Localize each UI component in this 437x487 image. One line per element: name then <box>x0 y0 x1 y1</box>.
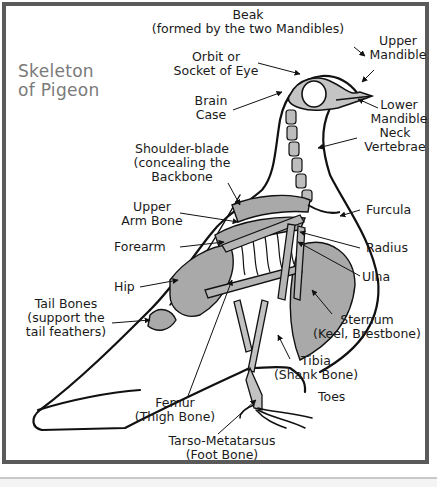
label-tail-bones-line3: tail feathers) <box>18 325 114 339</box>
foot <box>240 405 312 428</box>
label-orbit-line2: Socket of Eye <box>166 64 266 78</box>
diagram-title: Skeleton of Pigeon <box>18 62 100 100</box>
label-brain-case-line1: Brain <box>186 94 236 108</box>
label-shoulder-blade-line3: Backbone <box>126 170 238 184</box>
label-toes: Toes <box>318 390 345 404</box>
label-femur: Femur (Thigh Bone) <box>130 396 220 424</box>
label-beak-line2: (formed by the two Mandibles) <box>138 22 358 36</box>
label-forearm-line1: Forearm <box>114 240 166 254</box>
label-orbit: Orbit or Socket of Eye <box>166 50 266 78</box>
label-tibia: Tibia (Shank Bone) <box>268 354 364 382</box>
label-tail-bones-line2: (support the <box>18 311 114 325</box>
title-line-2: of Pigeon <box>18 81 100 100</box>
label-sternum-line1: Sternum <box>304 313 430 327</box>
neck-vertebrae <box>286 110 312 202</box>
label-upper-arm-bone: Upper Arm Bone <box>120 200 184 228</box>
label-radius: Radius <box>366 241 408 255</box>
label-brain-case-line2: Case <box>186 108 236 122</box>
label-lower-mandible-line2: Mandible <box>364 112 434 126</box>
label-sternum-line2: (Keel, Brestbone) <box>304 327 430 341</box>
label-shoulder-blade: Shoulder-blade (concealing the Backbone <box>126 142 238 184</box>
label-furcula: Furcula <box>366 203 411 217</box>
label-beak: Beak (formed by the two Mandibles) <box>138 8 358 36</box>
label-toes-line1: Toes <box>318 390 345 404</box>
label-upper-mandible: Upper Mandible <box>364 34 432 62</box>
label-upper-arm-bone-line2: Arm Bone <box>120 214 184 228</box>
label-upper-mandible-line1: Upper <box>364 34 432 48</box>
label-upper-mandible-line2: Mandible <box>364 48 432 62</box>
label-upper-arm-bone-line1: Upper <box>120 200 184 214</box>
label-tibia-line1: Tibia <box>268 354 364 368</box>
label-ulna-line1: Ulna <box>362 270 390 284</box>
label-radius-line1: Radius <box>366 241 408 255</box>
label-furcula-line1: Furcula <box>366 203 411 217</box>
label-hip-line1: Hip <box>114 280 135 294</box>
label-tibia-line2: (Shank Bone) <box>268 368 364 382</box>
label-tarso-metatarsus: Tarso-Metatarsus (Foot Bone) <box>152 434 292 462</box>
label-hip: Hip <box>114 280 135 294</box>
label-ulna: Ulna <box>362 270 390 284</box>
label-shoulder-blade-line2: (concealing the <box>126 156 238 170</box>
label-tarso-metatarsus-line1: Tarso-Metatarsus <box>152 434 292 448</box>
label-neck-vertebrae: Neck Vertebrae <box>356 126 434 154</box>
label-neck-vertebrae-line2: Vertebrae <box>356 140 434 154</box>
label-brain-case: Brain Case <box>186 94 236 122</box>
label-tail-bones: Tail Bones (support the tail feathers) <box>18 297 114 339</box>
leg-bones <box>234 300 268 410</box>
label-tail-bones-line1: Tail Bones <box>18 297 114 311</box>
label-shoulder-blade-line1: Shoulder-blade <box>126 142 238 156</box>
label-femur-line1: Femur <box>130 396 220 410</box>
label-neck-vertebrae-line1: Neck <box>356 126 434 140</box>
label-forearm: Forearm <box>114 240 166 254</box>
label-lower-mandible-line1: Lower <box>364 98 434 112</box>
label-tarso-metatarsus-line2: (Foot Bone) <box>152 448 292 462</box>
label-lower-mandible: Lower Mandible <box>364 98 434 126</box>
title-line-1: Skeleton <box>18 62 100 81</box>
skull <box>288 78 372 110</box>
label-beak-line1: Beak <box>138 8 358 22</box>
label-sternum: Sternum (Keel, Brestbone) <box>304 313 430 341</box>
label-femur-line2: (Thigh Bone) <box>130 410 220 424</box>
label-orbit-line1: Orbit or <box>166 50 266 64</box>
